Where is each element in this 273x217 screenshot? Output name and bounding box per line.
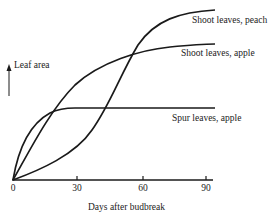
x-tick-label-30: 30: [72, 184, 82, 194]
x-tick-label-60: 60: [138, 184, 148, 194]
x-tick-label-0: 0: [11, 184, 16, 194]
x-tick-label-90: 90: [201, 184, 211, 194]
y-axis-label: Leaf area: [14, 61, 50, 71]
up-arrow-icon: [7, 64, 12, 71]
series-label-apple-spur: Spur leaves, apple: [172, 114, 241, 124]
series-label-apple-shoot: Shoot leaves, apple: [181, 49, 255, 59]
curve-shoot-leaves-peach: [13, 10, 215, 180]
series-label-peach: Shoot leaves, peach: [192, 16, 267, 26]
leaf-area-chart: [0, 0, 273, 217]
x-axis-label: Days after budbreak: [88, 203, 165, 213]
